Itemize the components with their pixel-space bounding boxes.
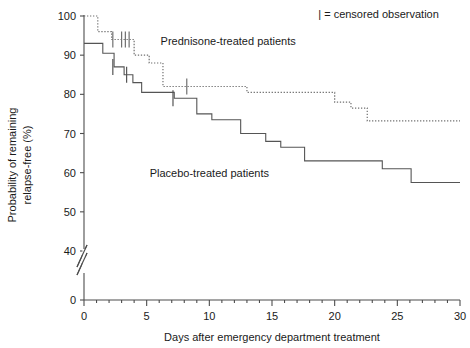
y-tick-label-0: 0 (70, 294, 76, 306)
series-placebo (84, 43, 460, 182)
y-tick-label-40: 40 (64, 245, 76, 257)
series-prednisone (84, 16, 460, 121)
x-tick-label-10: 10 (203, 310, 215, 322)
x-tick-label-30: 30 (454, 310, 466, 322)
legend-censored-note: | = censored observation (318, 8, 439, 20)
kaplan-meier-figure: 1009080706050400051015202530 Probability… (0, 0, 470, 348)
x-tick-label-25: 25 (391, 310, 403, 322)
x-tick-label-5: 5 (144, 310, 150, 322)
survival-chart-svg: 1009080706050400051015202530 Probability… (0, 0, 470, 348)
y-tick-label-80: 80 (64, 88, 76, 100)
x-tick-label-20: 20 (329, 310, 341, 322)
survival-curve-1 (84, 43, 460, 182)
series-label-placebo: Placebo-treated patients (150, 167, 270, 179)
series-label-prednisone: Prednisone-treated patients (161, 35, 297, 47)
y-axis-title-line2: relapse-free (%) (21, 126, 33, 205)
y-tick-label-100: 100 (58, 10, 76, 22)
x-tick-label-15: 15 (266, 310, 278, 322)
y-axis-title-line1: Probability of remaining (6, 108, 18, 223)
y-tick-label-50: 50 (64, 206, 76, 218)
x-tick-label-0: 0 (81, 310, 87, 322)
y-tick-label-70: 70 (64, 128, 76, 140)
y-tick-label-90: 90 (64, 49, 76, 61)
y-tick-label-60: 60 (64, 167, 76, 179)
y-axis-break-marker (77, 245, 87, 275)
survival-curve-0 (84, 16, 460, 121)
x-axis-title: Days after emergency department treatmen… (164, 331, 380, 343)
